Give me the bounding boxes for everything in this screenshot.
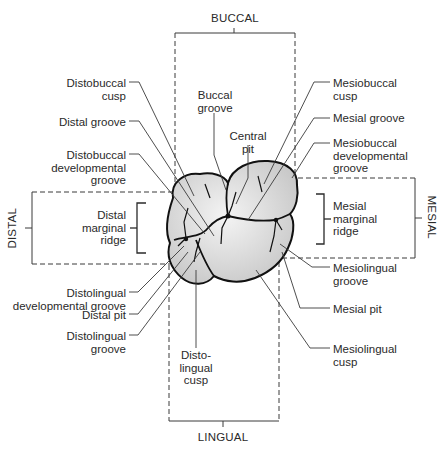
label-central-pit: Central pit [223,130,273,155]
label-mesial-groove: Mesial groove [333,112,443,125]
mesial-marginal-ridge-bracket [316,194,331,244]
label-mesiobuccal-developmental-groove: Mesiobuccal developmental groove [333,137,443,175]
label-distal-marginal-ridge: Distal marginal ridge [40,209,126,247]
label-distolingual-groove: Distolingual groove [20,330,126,355]
label-mesial: MESIAL [426,189,439,245]
label-mesiolingual-groove: Mesiolingual groove [333,262,443,287]
label-distal: DISTAL [6,200,19,256]
label-buccal: BUCCAL [205,12,265,25]
label-distal-pit: Distal pit [20,309,126,322]
tooth-diagram: BUCCAL LINGUAL DISTAL MESIAL Distobuccal… [0,0,445,451]
label-mesiolingual-cusp: Mesiolingual cusp [333,343,443,368]
label-mesiobuccal-cusp: Mesiobuccal cusp [333,77,443,102]
label-distal-groove: Distal groove [20,116,126,129]
label-distobuccal-developmental-groove: Distobuccal developmental groove [20,149,126,187]
label-distolingual-cusp: Disto- lingual cusp [171,349,221,387]
tooth-occlusal-surface [167,161,298,284]
lingual-bracket [169,262,279,427]
label-mesial-pit: Mesial pit [333,303,443,316]
distal-marginal-ridge-bracket [130,203,146,253]
label-lingual: LINGUAL [193,431,253,444]
label-mesial-marginal-ridge: Mesial marginal ridge [333,200,413,238]
label-distobuccal-cusp: Distobuccal cusp [20,77,126,102]
label-buccal-groove: Buccal groove [190,89,240,114]
